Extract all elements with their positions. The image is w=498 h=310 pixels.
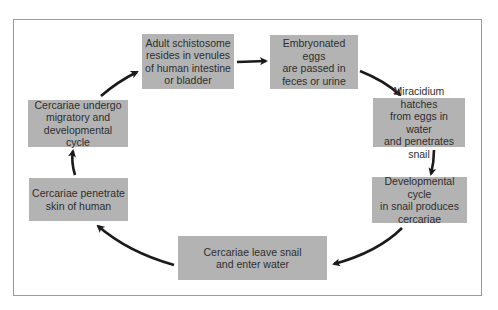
step-adult-schistosome: Adult schistosome resides in venules of … xyxy=(142,34,234,89)
step-label: Cercariae undergo migratory and developm… xyxy=(31,99,125,149)
step-cercariae-leave-snail: Cercariae leave snail and enter water xyxy=(178,236,327,280)
step-miracidium-hatches: Miracidium hatches from eggs in water an… xyxy=(373,98,465,147)
step-label: Adult schistosome resides in venules of … xyxy=(145,37,231,87)
step-label: Embryonated eggs are passed in feces or … xyxy=(273,37,355,87)
step-cercariae-migratory-cycle: Cercariae undergo migratory and developm… xyxy=(28,100,128,147)
step-snail-developmental-cycle: Developmental cycle in snail produces ce… xyxy=(372,177,467,223)
step-label: Cercariae leave snail and enter water xyxy=(203,246,301,271)
step-label: Developmental cycle in snail produces ce… xyxy=(375,175,464,225)
step-embryonated-eggs: Embryonated eggs are passed in feces or … xyxy=(270,35,358,89)
step-label: Miracidium hatches from eggs in water an… xyxy=(376,85,462,160)
step-label: Cercariae penetrate skin of human xyxy=(32,187,125,212)
step-cercariae-penetrate-skin: Cercariae penetrate skin of human xyxy=(29,178,128,221)
